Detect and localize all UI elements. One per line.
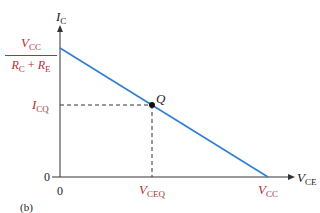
icq-label: ICQ (32, 98, 49, 114)
q-point-label: Q (156, 92, 165, 105)
x-axis-label: VCE (297, 171, 316, 187)
q-point-marker (149, 102, 155, 108)
y-axis-arrow-icon (57, 25, 63, 32)
panel-label: (b) (20, 202, 33, 213)
y-intercept-label: VCC RC + RE (5, 36, 57, 74)
x-intercept-label: VCC (258, 183, 278, 199)
x-axis-arrow-icon (288, 174, 295, 180)
load-line (60, 48, 268, 177)
origin-y-label: 0 (44, 171, 50, 183)
y-axis-label: IC (56, 10, 66, 26)
vceq-label: VCEQ (139, 183, 165, 199)
origin-x-label: 0 (57, 185, 63, 197)
